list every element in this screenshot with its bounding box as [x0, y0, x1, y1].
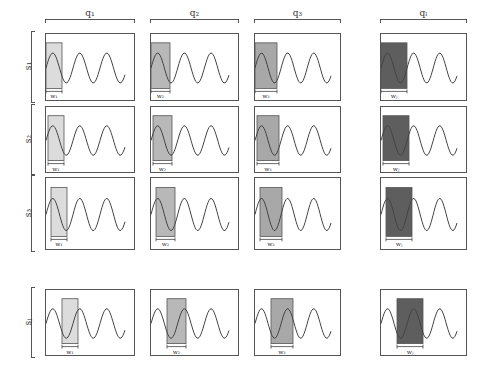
window-width-label: wⱼ: [389, 240, 409, 247]
column-label: qₗ: [380, 8, 467, 18]
window-width-label: w₁: [44, 92, 64, 99]
sine-wave-plot: [255, 290, 342, 357]
window-box: [257, 116, 279, 161]
signal-panel: w₃: [254, 177, 341, 250]
signal-panel: w₁: [45, 289, 135, 356]
column-label: q₁: [45, 8, 135, 18]
window-box: [260, 187, 282, 236]
signal-panel: w₃: [254, 289, 341, 356]
window-width-label: w₂: [167, 348, 187, 355]
window-width-label: w₃: [272, 348, 292, 355]
window-width-label: wⱼ: [400, 348, 420, 355]
signal-panel: wⱼ: [380, 289, 467, 356]
window-width-label: w₂: [151, 92, 171, 99]
window-box: [381, 43, 407, 89]
window-width-label: w₂: [153, 165, 173, 172]
window-width-label: w₃: [256, 92, 276, 99]
signal-panel: wⱼ: [380, 106, 467, 173]
signal-panel: wⱼ: [380, 33, 467, 101]
column-bracket: [150, 19, 239, 23]
window-width-label: w₃: [261, 240, 281, 247]
sine-wave-plot: [151, 290, 240, 357]
signal-panel: w₂: [150, 106, 239, 173]
window-box: [151, 43, 170, 89]
window-width-label: w₃: [258, 165, 278, 172]
signal-panel: w₂: [150, 289, 239, 356]
window-box: [156, 187, 175, 236]
row-label: s₁: [23, 56, 33, 76]
window-width-label: wⱼ: [384, 92, 404, 99]
window-box: [46, 43, 62, 89]
row-label: s₂: [23, 129, 33, 149]
window-box: [48, 116, 64, 161]
window-width-label: wⱼ: [386, 165, 406, 172]
column-label: q₂: [150, 8, 239, 18]
sine-wave: [46, 309, 125, 338]
sine-wave: [151, 309, 229, 338]
row-label: sⱼ: [23, 312, 33, 332]
column-label: q₃: [254, 8, 341, 18]
signal-panel: w₁: [45, 106, 135, 173]
column-bracket: [380, 19, 467, 23]
signal-panel: w₂: [150, 177, 239, 250]
window-width-label: w₁: [60, 348, 80, 355]
signal-panel: w₂: [150, 33, 239, 101]
window-width-label: w₁: [46, 165, 66, 172]
row-label: s₃: [23, 203, 33, 223]
sine-wave-plot: [381, 290, 468, 357]
signal-panel: w₁: [45, 33, 135, 101]
signal-panel: w₃: [254, 106, 341, 173]
column-bracket: [254, 19, 341, 23]
window-box: [383, 116, 409, 161]
window-box: [255, 43, 277, 89]
column-bracket: [45, 19, 135, 23]
window-width-label: w₂: [156, 240, 176, 247]
signal-panel: w₃: [254, 33, 341, 101]
signal-panel: w₁: [45, 177, 135, 250]
window-width-label: w₁: [49, 240, 69, 247]
signal-panel: wⱼ: [380, 177, 467, 250]
